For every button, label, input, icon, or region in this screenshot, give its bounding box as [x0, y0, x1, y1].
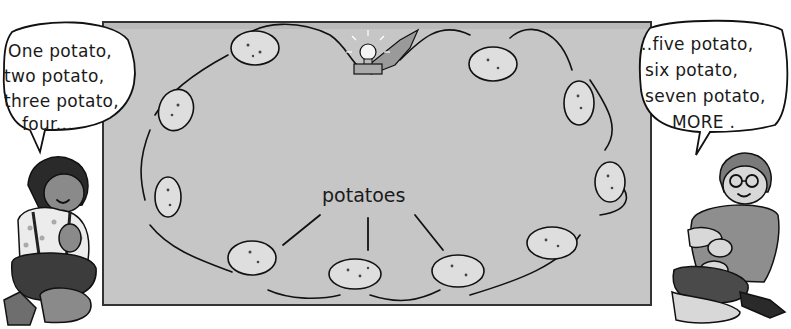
left-bubble-line-4: four... — [22, 114, 73, 134]
left-bubble-line-1: One potato, — [8, 41, 112, 61]
potato — [432, 255, 484, 287]
right-bubble-line-4: MORE . — [672, 112, 735, 132]
potato — [595, 162, 625, 202]
potato — [155, 177, 181, 217]
left-bubble-line-3: three potato, — [4, 91, 119, 111]
left-bubble-line-2: two potato, — [4, 66, 104, 86]
potato — [527, 227, 577, 259]
potato — [564, 81, 594, 125]
potatoes-label: potatoes — [322, 184, 405, 206]
right-bubble-line-1: ..five potato, — [641, 34, 753, 54]
potato-battery-illustration: potatoes One potato, two potato, three p… — [0, 0, 791, 329]
girl-character — [4, 157, 96, 325]
potato — [228, 241, 276, 275]
potato — [329, 259, 381, 289]
right-bubble-line-2: six potato, — [645, 60, 738, 80]
potato — [231, 31, 279, 65]
right-bubble-line-3: seven potato, — [645, 86, 766, 106]
potato — [469, 47, 517, 81]
boy-character — [672, 153, 785, 323]
